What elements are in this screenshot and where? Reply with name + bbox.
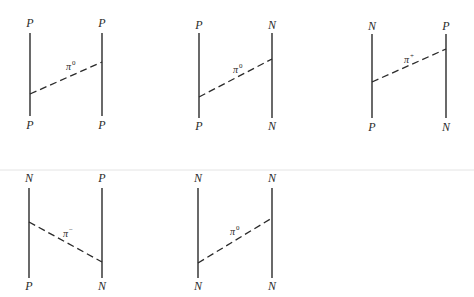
top-left-nucleon-label: N: [24, 171, 34, 185]
top-right-nucleon-label: N: [267, 171, 277, 185]
bottom-left-nucleon-label: P: [194, 119, 203, 133]
pion-charge: −: [69, 226, 73, 234]
bottom-right-nucleon-label: P: [97, 118, 106, 132]
top-right-nucleon-label: P: [97, 171, 106, 185]
exchange-diagram-nn-pi0: NNNNπ0: [193, 171, 277, 293]
pion-charge: 0: [239, 62, 243, 70]
bottom-left-nucleon-label: P: [24, 279, 33, 293]
exchange-diagram-np-pi-plus: NPPNπ+: [367, 19, 451, 134]
top-left-nucleon-label: N: [193, 171, 203, 185]
top-left-nucleon-label: P: [25, 16, 34, 30]
bottom-left-nucleon-label: P: [25, 118, 34, 132]
top-right-nucleon-label: N: [267, 18, 277, 32]
pion-label: π0: [230, 224, 240, 237]
pion-label: π0: [233, 62, 243, 75]
pion-charge: 0: [236, 224, 240, 232]
pion-exchange-line: [198, 218, 272, 263]
pion-charge: +: [410, 52, 414, 60]
exchange-diagram-pn-pi0: PNPNπ0: [194, 18, 277, 133]
exchange-diagram-pp-pi0: PPPPπ0: [25, 16, 106, 132]
top-left-nucleon-label: P: [194, 18, 203, 32]
bottom-left-nucleon-label: N: [193, 279, 203, 293]
exchange-diagram-np-pi-minus: NPPNπ−: [24, 171, 107, 293]
pion-charge: 0: [72, 59, 76, 67]
pion-label: π0: [66, 59, 76, 72]
bottom-left-nucleon-label: P: [367, 120, 376, 134]
pion-label: π+: [404, 52, 414, 65]
top-right-nucleon-label: P: [441, 19, 450, 33]
pion-label: π−: [63, 226, 73, 239]
bottom-right-nucleon-label: N: [267, 279, 277, 293]
top-right-nucleon-label: P: [97, 16, 106, 30]
bottom-right-nucleon-label: N: [267, 119, 277, 133]
diagram-group: PPPPπ0PNPNπ0NPPNπ+NPPNπ−NNNNπ0: [24, 16, 451, 293]
pion-exchange-figure: PPPPπ0PNPNπ0NPPNπ+NPPNπ−NNNNπ0: [0, 0, 474, 297]
bottom-right-nucleon-label: N: [97, 279, 107, 293]
top-left-nucleon-label: N: [367, 19, 377, 33]
bottom-right-nucleon-label: N: [441, 120, 451, 134]
